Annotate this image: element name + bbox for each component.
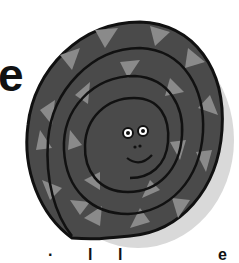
nostril — [138, 144, 141, 147]
cropped-caption-fragment: · — [48, 247, 53, 263]
cropped-caption-fragment: l — [118, 247, 122, 263]
cropped-caption-fragment: l — [88, 247, 92, 263]
nostril — [133, 145, 136, 148]
cropped-caption-fragment: e — [218, 247, 227, 263]
